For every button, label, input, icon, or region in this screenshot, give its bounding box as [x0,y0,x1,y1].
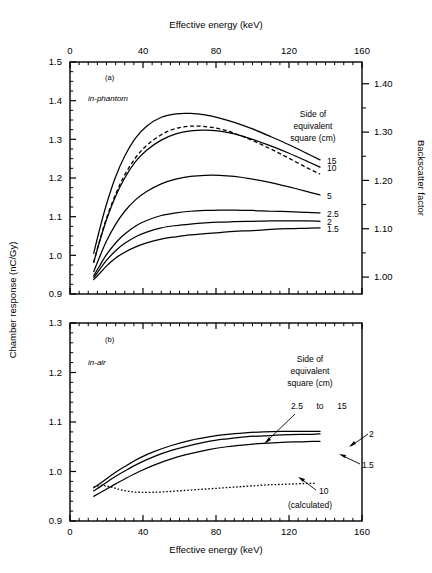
panel-a-tag: (a) [105,73,115,82]
scientific-figure: Effective energy (keV) 0.91.01.11.21.31.… [0,0,432,573]
panel-a-curve-label-1.5: 1.5 [327,224,339,234]
curve-2.5 [94,210,320,276]
panel-b-group-label-lower: 2.5 [291,401,303,411]
figure-container: Effective energy (keV) 0.91.01.11.21.31.… [0,0,432,573]
panel-a-legend-title-line3: square (cm) [290,133,336,143]
curve-10-calculated- [94,483,317,492]
panel-a-tick-labels: 0.91.01.11.21.31.41.504080120160 [49,45,370,299]
panel-b-legend-title-line1: Side of [297,354,324,364]
arrow-line-group [266,414,295,442]
panel-b-tag: (b) [105,335,115,344]
y-tick-label: 0.9 [49,515,62,526]
panel-b-group-label-upper: 15 [337,401,347,411]
panel-a-curve-label-5: 5 [327,191,332,201]
bottom-axis-title: Effective energy (keV) [169,544,262,555]
x-tick-label-top: 0 [67,45,72,56]
y-tick-label: 0.9 [49,288,62,299]
y-tick-label: 1.2 [49,367,62,378]
y2-tick-label: 1.40 [374,78,393,89]
panel-a-condition-label: in-phantom [88,94,128,103]
y-tick-label: 1.0 [49,466,62,477]
panel-b-calculated-label: 10 [319,486,329,496]
y-tick-label: 1.4 [49,95,62,106]
left-axis-title: Chamber response (nC/Gy) [7,242,18,359]
panel-a-right-tick-labels: 1.001.101.201.301.40 [374,78,393,282]
panel-a-legend-title-line1: Side of [300,109,327,119]
panel-b-calculated-note: (calculated) [288,500,332,510]
y-tick-label: 1.5 [49,56,62,67]
panel-a-right-axis: 1.001.101.201.301.40 Backscatter factor [362,78,427,282]
panel-a-curve-labels: 151052.521.5 [327,156,339,234]
panel-b-curve-label-15: 1.5 [362,460,374,470]
panel-b-arrow-group [264,414,368,490]
y-tick-label: 1.1 [49,211,62,222]
x-tick-label-bottom: 120 [281,526,297,537]
x-tick-label-top: 120 [281,45,297,56]
y2-tick-label: 1.10 [374,223,393,234]
x-tick-label-bottom: 160 [354,526,370,537]
panel-a: 0.91.01.11.21.31.41.504080120160 (a) in-… [49,45,370,299]
x-tick-label-bottom: 40 [138,526,149,537]
panel-b-legend-title-line3: square (cm) [287,378,333,388]
panel-a-curve-label-10: 10 [327,163,337,173]
x-tick-label-top: 160 [354,45,370,56]
x-tick-label-bottom: 80 [211,526,222,537]
x-tick-label-top: 80 [211,45,222,56]
y2-tick-label: 1.00 [374,271,393,282]
panel-b-curves [94,431,320,496]
panel-a-right-ticks [362,84,369,277]
x-tick-label-top: 40 [138,45,149,56]
panel-b-curve-label-2: 2 [369,429,374,439]
y-tick-label: 1.3 [49,134,62,145]
arrow-head-2 [349,441,356,447]
panel-b-group-label-to: to [316,401,323,411]
curve-2 [94,221,320,278]
curve-2.5-to-15 [94,431,320,487]
panel-a-legend-title-line2: equivalent [294,121,333,131]
y2-tick-label: 1.20 [374,175,393,186]
panel-b-condition-label: in-air [88,358,106,367]
arrow-head-15 [339,454,346,458]
panel-b: 0.91.01.11.21.304080120160 (b) in-air Si… [49,317,374,537]
y-tick-label: 1.3 [49,317,62,328]
y2-tick-label: 1.30 [374,126,393,137]
y-tick-label: 1.2 [49,172,62,183]
x-tick-label-bottom: 0 [67,526,72,537]
y-tick-label: 1.1 [49,416,62,427]
right-axis-title: Backscatter factor [416,140,427,216]
top-axis-title: Effective energy (keV) [169,19,262,30]
curve-1.5 [94,228,320,280]
panel-b-legend-title-line2: equivalent [291,366,330,376]
y-tick-label: 1.0 [49,250,62,261]
panel-a-curves [94,113,320,279]
